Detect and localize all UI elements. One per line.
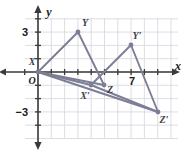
vertex-point <box>89 83 94 88</box>
figure-canvas: XYZX′Y′Z′ 73−3 x y O <box>0 0 192 152</box>
vertex-point <box>129 43 134 48</box>
vertex-label: X′ <box>79 90 90 101</box>
vertex-point <box>102 83 107 88</box>
x-axis-label: x <box>174 59 181 73</box>
vertex-point <box>36 70 41 75</box>
y-tick-label: −3 <box>15 106 28 118</box>
vertex-label: Y <box>82 17 89 28</box>
vertex-label: Z <box>106 84 113 95</box>
vertex-label: X <box>28 56 36 67</box>
vertex-label: Z′ <box>159 114 169 125</box>
y-axis-label: y <box>44 5 52 19</box>
origin-label: O <box>28 75 35 86</box>
coordinate-plane-figure: XYZX′Y′Z′ 73−3 x y O <box>0 0 192 152</box>
x-tick-label: 7 <box>129 75 135 87</box>
vertex-point <box>76 30 81 35</box>
vertex-label: Y′ <box>133 30 142 41</box>
y-tick-label: 3 <box>22 26 28 38</box>
